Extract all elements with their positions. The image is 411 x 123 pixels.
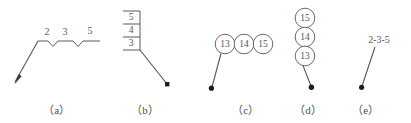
caption-a: （a）	[43, 101, 70, 117]
leader-line-c	[212, 54, 221, 88]
leader-line-d	[303, 66, 311, 86]
terminator-dot-e	[359, 85, 364, 90]
label-b-0: 5	[129, 12, 134, 22]
caption-e: （e）	[352, 101, 379, 117]
caption-d: （d）	[294, 101, 322, 117]
label-a-1: 3	[63, 26, 68, 37]
label-d-0: 15	[300, 13, 310, 23]
diagram-b: 5 4 3	[123, 11, 169, 86]
label-e-0: 2-3-5	[368, 34, 390, 45]
terminator-dot-c	[209, 86, 214, 91]
leader-line-b	[140, 50, 167, 84]
label-d-1: 14	[300, 32, 310, 42]
label-c-0: 13	[220, 39, 230, 49]
diagram-e: 2-3-5	[359, 34, 390, 90]
label-c-2: 15	[258, 39, 268, 49]
diagram-c: 13 14 15	[209, 34, 273, 91]
label-a-2: 5	[88, 25, 93, 36]
caption-c: （c）	[232, 101, 259, 117]
label-c-1: 14	[239, 39, 249, 49]
leader-line-e	[362, 47, 375, 86]
arrowhead-icon-a	[15, 74, 21, 83]
terminator-dot-d	[309, 85, 314, 90]
shelf-line-a	[38, 41, 100, 47]
label-b-1: 4	[129, 25, 134, 35]
caption-b: （b）	[131, 101, 159, 117]
diagram-a: 2 3 5	[15, 25, 100, 84]
label-d-2: 13	[300, 51, 310, 61]
label-b-2: 3	[129, 38, 134, 48]
diagram-d: 15 14 13	[295, 8, 315, 90]
figure-root: 2 3 5 5 4 3 13 14 15	[0, 0, 411, 123]
label-a-0: 2	[45, 26, 50, 37]
terminator-dot-b	[165, 82, 169, 86]
